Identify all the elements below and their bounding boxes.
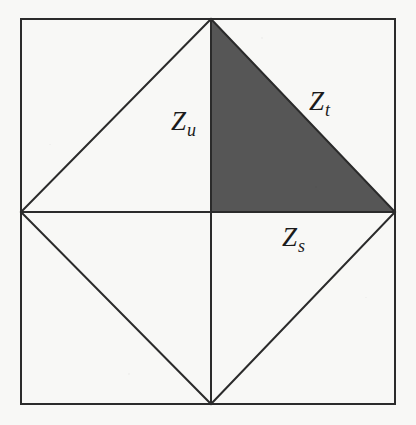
label-z-s-subscript: s bbox=[298, 236, 305, 256]
label-z-u-subscript: u bbox=[187, 120, 196, 140]
geometry-diagram bbox=[0, 0, 416, 425]
label-z-t-base: Z bbox=[309, 86, 324, 116]
label-z-t: Zt bbox=[309, 88, 329, 115]
figure-container: Zu Zt Zs bbox=[0, 0, 416, 425]
label-z-u-base: Z bbox=[171, 106, 186, 136]
label-z-s: Zs bbox=[282, 224, 304, 251]
label-z-t-subscript: t bbox=[325, 100, 330, 120]
label-z-u: Zu bbox=[171, 108, 195, 135]
label-z-s-base: Z bbox=[282, 222, 297, 252]
